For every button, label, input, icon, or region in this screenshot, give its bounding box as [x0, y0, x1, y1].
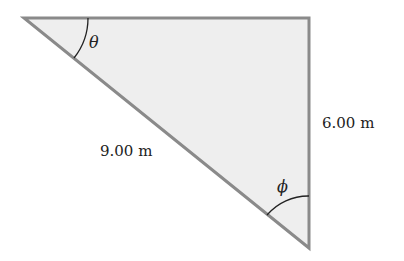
phi-label: ϕ: [277, 177, 288, 196]
theta-label: θ: [89, 33, 99, 52]
hypotenuse-length-label: 9.00 m: [100, 142, 152, 160]
right-triangle: [24, 18, 309, 248]
vertical-side-length-label: 6.00 m: [322, 114, 374, 132]
